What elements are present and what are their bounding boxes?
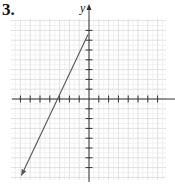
coordinate-plane bbox=[0, 0, 175, 186]
